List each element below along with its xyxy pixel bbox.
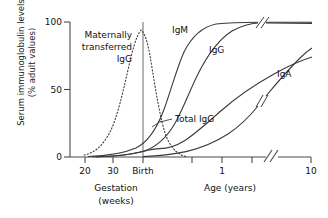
x-axis-title-gestation: Gestation [78,183,154,193]
x-axis-title-gestation-units: (weeks) [78,196,154,206]
curve-label-iga: IgA [277,69,292,79]
x-axis-title-age: Age (years) [190,183,270,193]
immunoglobulin-development-chart: Serum immunoglobulin levels (% adult val… [0,0,328,218]
curve-label-total-igg: Total IgG [175,114,214,124]
chart-plot-area [0,0,328,218]
y-tick-label-100: 100 [38,17,62,27]
x-tick-label-1-year: 1 [210,166,234,176]
x-tick-label-10-years: 10 [299,166,323,176]
curve-label-igg: IgG [209,45,224,55]
y-axis-title-line1: Serum immunoglobulin levels [16,0,27,133]
y-tick-label-50: 50 [38,85,62,95]
y-axis-title: Serum immunoglobulin levels (% adult val… [16,0,37,133]
curve-label-igm: IgM [172,25,188,35]
x-tick-label-20: 20 [73,166,97,176]
x-tick-label-30: 30 [101,166,125,176]
y-axis-title-line2: (% adult values) [26,0,37,133]
annotation-maternal-igg-line1: Maternally [58,30,132,40]
y-tick-label-0: 0 [38,152,62,162]
x-tick-label-birth: Birth [125,166,161,176]
annotation-maternal-igg-line2: transferred [58,42,132,52]
annotation-maternal-igg-line3: IgG [58,54,132,64]
